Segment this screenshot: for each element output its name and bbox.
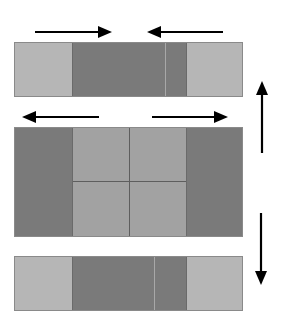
top-bar-left-light-segment xyxy=(15,43,72,96)
grid-cell-top-right xyxy=(130,128,187,182)
seam-line xyxy=(154,257,155,310)
bottom-bar-right-light-segment xyxy=(186,257,242,310)
bottom-bar-left-light-segment xyxy=(15,257,72,310)
grid-cell-top-left xyxy=(73,128,130,182)
arrow-right-icon xyxy=(152,111,228,123)
arrow-up-icon xyxy=(256,81,268,153)
diagram-canvas xyxy=(0,0,288,332)
top-bar-right-light-segment xyxy=(186,43,242,96)
middle-center-grid xyxy=(72,128,186,236)
top-bar xyxy=(14,42,243,97)
middle-left-dark-segment xyxy=(15,128,72,236)
arrow-down-icon xyxy=(255,213,267,285)
top-bar-center-dark-segment xyxy=(72,43,186,96)
arrow-right-icon xyxy=(35,26,112,38)
arrow-left-icon xyxy=(22,111,99,123)
middle-right-dark-segment xyxy=(186,128,242,236)
middle-block xyxy=(14,127,243,237)
seam-line xyxy=(165,43,166,96)
grid-cell-bottom-left xyxy=(73,182,130,236)
arrow-left-icon xyxy=(147,26,223,38)
grid-cell-bottom-right xyxy=(130,182,187,236)
bottom-bar xyxy=(14,256,243,311)
bottom-bar-center-dark-segment xyxy=(72,257,186,310)
